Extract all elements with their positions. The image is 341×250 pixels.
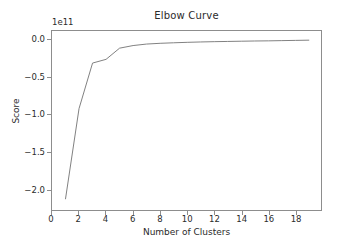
plot-area (51, 30, 322, 211)
x-tick-mark (214, 211, 215, 215)
curve-svg (52, 31, 321, 210)
y-tick-label: 0.0 (31, 34, 45, 44)
x-tick-mark (187, 211, 188, 215)
score-line-series (66, 40, 309, 199)
x-tick-label: 4 (103, 214, 108, 224)
y-axis-exponent-label: 1e11 (52, 17, 73, 27)
x-tick-label: 18 (291, 214, 302, 224)
x-tick-label: 6 (130, 214, 135, 224)
x-tick-mark (160, 211, 161, 215)
x-tick-label: 2 (76, 214, 81, 224)
x-tick-mark (51, 211, 52, 215)
y-axis-label: Score (11, 81, 21, 141)
y-tick-label: −1.5 (24, 147, 45, 157)
x-tick-mark (78, 211, 79, 215)
x-tick-label: 10 (182, 214, 193, 224)
x-tick-mark (105, 211, 106, 215)
x-tick-mark (296, 211, 297, 215)
y-tick-label: −2.0 (24, 185, 45, 195)
y-tick-label-group: 0.0−0.5−1.0−1.5−2.0 (0, 0, 45, 250)
x-axis-label: Number of Clusters (51, 227, 322, 237)
x-tick-label: 0 (48, 214, 53, 224)
y-tick-label: −1.0 (24, 109, 45, 119)
chart-figure: Elbow Curve 1e11 0.0−0.5−1.0−1.5−2.0 024… (0, 0, 341, 250)
x-tick-label: 8 (157, 214, 162, 224)
x-tick-label: 14 (236, 214, 247, 224)
x-tick-mark (242, 211, 243, 215)
x-tick-mark (133, 211, 134, 215)
x-tick-label: 12 (209, 214, 220, 224)
chart-title: Elbow Curve (51, 10, 322, 21)
x-tick-label: 16 (263, 214, 274, 224)
x-tick-mark (269, 211, 270, 215)
y-tick-label: −0.5 (24, 72, 45, 82)
